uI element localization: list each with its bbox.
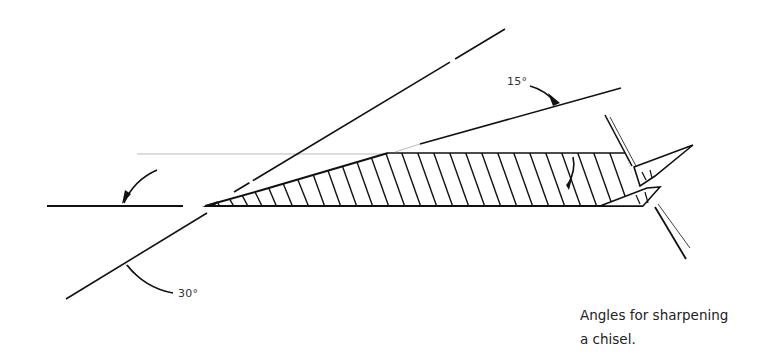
chisel-blade xyxy=(205,148,646,210)
angle-30-arrow xyxy=(127,265,173,293)
figure-caption: Angles for sharpening a chisel. xyxy=(580,303,760,351)
caption-line-1: Angles for sharpening xyxy=(580,303,760,327)
guide-line-15 xyxy=(420,88,621,144)
base-angle-arrow xyxy=(124,170,157,203)
angle-label-30: 30° xyxy=(178,287,198,300)
caption-line-2: a chisel. xyxy=(580,327,760,351)
angle-label-15: 15° xyxy=(507,75,527,88)
